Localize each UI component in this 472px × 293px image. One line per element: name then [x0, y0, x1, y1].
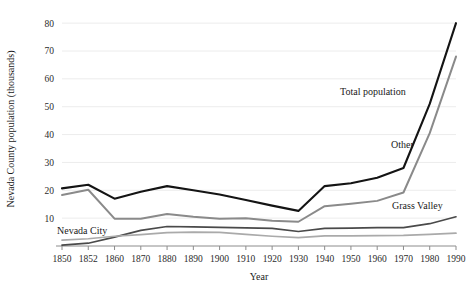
- line-chart: 1020304050607080185018521860187018801890…: [0, 0, 472, 293]
- x-tick-label-1940: 1940: [315, 254, 334, 264]
- x-tick-label-1970: 1970: [394, 254, 413, 264]
- x-tick-label-1870: 1870: [131, 254, 150, 264]
- x-tick-label-1930: 1930: [289, 254, 308, 264]
- x-tick-label-1850: 1850: [53, 254, 72, 264]
- y-tick-label-30: 30: [45, 158, 55, 168]
- y-tick-label-60: 60: [45, 74, 55, 84]
- series-label-nevada-city: Nevada City: [57, 225, 107, 236]
- x-axis-title: Year: [250, 271, 269, 282]
- chart-canvas: 1020304050607080185018521860187018801890…: [0, 0, 472, 293]
- x-tick-label-1990: 1990: [447, 254, 466, 264]
- x-tick-label-1980: 1980: [420, 254, 439, 264]
- y-tick-label-80: 80: [45, 19, 55, 29]
- series-line-grass-valley: [62, 217, 456, 245]
- series-line-nevada-city: [62, 232, 456, 240]
- x-tick-label-1900: 1900: [210, 254, 229, 264]
- y-tick-label-40: 40: [45, 130, 55, 140]
- x-tick-label-1920: 1920: [263, 254, 282, 264]
- y-tick-label-70: 70: [45, 46, 55, 56]
- x-tick-label-1890: 1890: [184, 254, 203, 264]
- x-tick-label-1910: 1910: [236, 254, 255, 264]
- series-label-total-population: Total population: [340, 86, 406, 97]
- x-tick-label-1852: 1852: [79, 254, 98, 264]
- series-label-other: Other: [391, 139, 414, 150]
- y-tick-label-50: 50: [45, 102, 55, 112]
- y-tick-label-20: 20: [45, 186, 55, 196]
- y-tick-label-10: 10: [45, 214, 55, 224]
- x-tick-label-1950: 1950: [341, 254, 360, 264]
- x-tick-label-1860: 1860: [105, 254, 124, 264]
- y-axis-title: Nevada County population (thousands): [5, 51, 17, 208]
- x-tick-label-1960: 1960: [368, 254, 387, 264]
- series-label-grass-valley: Grass Valley: [392, 200, 443, 211]
- x-tick-label-1880: 1880: [158, 254, 177, 264]
